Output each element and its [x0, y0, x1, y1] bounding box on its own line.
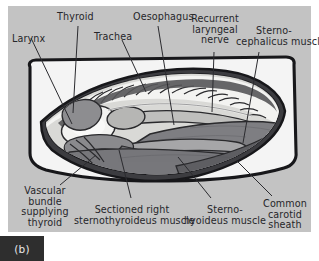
figure-caption: (b) — [0, 236, 44, 261]
label-thyroid: Thyroid — [57, 12, 94, 23]
label-vascular-bundle: Vascular bundle supplying thyroid — [16, 186, 74, 228]
figure-container: Larynx Thyroid Trachea Oesophagus Recurr… — [0, 0, 319, 261]
label-common-carotid-sheath: Common carotid sheath — [259, 199, 311, 231]
label-trachea: Trachea — [94, 32, 132, 43]
label-larynx: Larynx — [12, 34, 45, 45]
label-sectioned-sternothyroideus: Sectioned right sternothyroideus muscle — [74, 205, 190, 226]
label-sternohyoideus-muscle: Sterno- hyoideus muscle — [182, 205, 268, 226]
label-sternocephalicus-muscle: Sterno- cephalicus muscle — [236, 26, 312, 47]
